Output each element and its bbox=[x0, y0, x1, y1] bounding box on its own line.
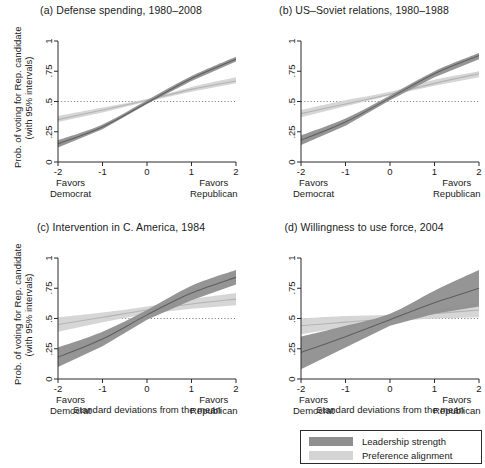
legend-item-leadership-strength: Leadership strength bbox=[301, 434, 481, 448]
panel-c-y-tick-2: .5 bbox=[43, 315, 54, 323]
x-axis-caption-right: Standard deviations from the mean bbox=[301, 404, 479, 415]
panel-a-plot-area: 0.25.5.751-2-1012FavorsDemocratFavorsRep… bbox=[58, 41, 236, 162]
panel-a-series-preference-alignment bbox=[58, 77, 236, 122]
panel-a-title: (a) Defense spending, 1980–2008 bbox=[0, 4, 242, 16]
panel-a-series-leadership-strength bbox=[58, 57, 236, 148]
panel-b-ci-band-leadership-strength bbox=[301, 53, 479, 145]
panel-d: (d) Willingness to use force, 2004 0.25.… bbox=[243, 217, 485, 432]
legend-swatch-preference-alignment bbox=[309, 451, 353, 460]
panel-a-y-tick-1: .25 bbox=[43, 125, 54, 138]
panel-a-y-tick-4: 1 bbox=[43, 38, 54, 43]
panel-a-x-tick-2: 0 bbox=[144, 166, 149, 177]
legend-label-preference-alignment: Preference alignment bbox=[362, 450, 452, 461]
panel-a-ci-band-preference-alignment bbox=[58, 77, 236, 122]
panel-b-axes bbox=[297, 41, 479, 166]
panel-a-x-sublabel-right: FavorsRepublican bbox=[190, 177, 238, 199]
figure-root: (a) Defense spending, 1980–2008 Prob. of… bbox=[0, 0, 485, 468]
x-sub-left-line1: Favors bbox=[299, 177, 328, 188]
panel-d-x-tick-4: 2 bbox=[476, 383, 481, 394]
panel-a-y-tick-0: 0 bbox=[43, 159, 54, 164]
legend-item-preference-alignment: Preference alignment bbox=[301, 448, 481, 462]
panel-d-y-tick-4: 1 bbox=[286, 255, 297, 260]
panel-b: (b) US–Soviet relations, 1980–1988 0.25.… bbox=[243, 0, 485, 215]
panel-a-x-tick-0: -2 bbox=[54, 166, 62, 177]
panel-c-canvas bbox=[58, 258, 236, 379]
panel-c-title: (c) Intervention in C. America, 1984 bbox=[0, 221, 242, 233]
x-axis-caption-left: Standard deviations from the mean bbox=[58, 404, 236, 415]
panel-b-series-preference-alignment bbox=[301, 71, 479, 117]
panel-c-y-tick-1: .25 bbox=[43, 342, 54, 355]
x-sub-left-line2: Democrat bbox=[293, 188, 334, 199]
panel-a-y-tick-2: .5 bbox=[43, 98, 54, 106]
panel-a-x-sublabel-left: FavorsDemocrat bbox=[50, 177, 91, 199]
panel-a-x-tick-3: 1 bbox=[189, 166, 194, 177]
panel-c-y-tick-0: 0 bbox=[43, 376, 54, 381]
panel-d-y-tick-0: 0 bbox=[286, 376, 297, 381]
panel-d-x-tick-2: 0 bbox=[387, 383, 392, 394]
x-sub-right-line2: Republican bbox=[433, 188, 481, 199]
panel-d-x-tick-1: -1 bbox=[341, 383, 349, 394]
panel-b-x-tick-0: -2 bbox=[297, 166, 305, 177]
panel-c-plot-area: 0.25.5.751-2-1012FavorsDemocratFavorsRep… bbox=[58, 258, 236, 379]
panel-b-canvas bbox=[301, 41, 479, 162]
panel-b-x-tick-3: 1 bbox=[432, 166, 437, 177]
panel-d-plot-area: 0.25.5.751-2-1012FavorsDemocratFavorsRep… bbox=[301, 258, 479, 379]
panel-b-x-tick-2: 0 bbox=[387, 166, 392, 177]
panel-b-y-tick-1: .25 bbox=[286, 125, 297, 138]
panel-a-y-tick-3: .75 bbox=[43, 65, 54, 78]
panel-c-y-axis-label: Prob. of voting for Rep. candidate (with… bbox=[12, 245, 34, 385]
panel-b-title: (b) US–Soviet relations, 1980–1988 bbox=[243, 4, 485, 16]
legend-label-leadership-strength: Leadership strength bbox=[362, 436, 446, 447]
panel-b-series-leadership-strength bbox=[301, 53, 479, 145]
panel-c-x-tick-0: -2 bbox=[54, 383, 62, 394]
panel-c-y-tick-4: 1 bbox=[43, 255, 54, 260]
panel-b-x-tick-1: -1 bbox=[341, 166, 349, 177]
panel-d-x-tick-0: -2 bbox=[297, 383, 305, 394]
x-sub-right-line1: Favors bbox=[442, 177, 471, 188]
x-sub-right-line1: Favors bbox=[199, 177, 228, 188]
panel-b-x-sublabel-right: FavorsRepublican bbox=[433, 177, 481, 199]
panel-d-y-tick-2: .5 bbox=[286, 315, 297, 323]
panel-c-x-tick-2: 0 bbox=[144, 383, 149, 394]
panel-d-x-tick-3: 1 bbox=[432, 383, 437, 394]
x-sub-left-line1: Favors bbox=[56, 177, 85, 188]
panel-c-x-tick-4: 2 bbox=[233, 383, 238, 394]
panel-d-y-tick-1: .25 bbox=[286, 342, 297, 355]
panel-a-x-tick-4: 2 bbox=[233, 166, 238, 177]
panel-d-y-tick-3: .75 bbox=[286, 282, 297, 295]
panel-c-x-tick-3: 1 bbox=[189, 383, 194, 394]
panel-d-title: (d) Willingness to use force, 2004 bbox=[243, 221, 485, 233]
panel-b-y-tick-2: .5 bbox=[286, 98, 297, 106]
panel-b-plot-area: 0.25.5.751-2-1012FavorsDemocratFavorsRep… bbox=[301, 41, 479, 162]
panel-b-x-sublabel-left: FavorsDemocrat bbox=[293, 177, 334, 199]
legend-swatch-leadership-strength bbox=[309, 437, 353, 446]
panel-b-y-tick-3: .75 bbox=[286, 65, 297, 78]
panel-c-y-tick-3: .75 bbox=[43, 282, 54, 295]
panel-b-x-tick-4: 2 bbox=[476, 166, 481, 177]
panel-d-canvas bbox=[301, 258, 479, 379]
panel-b-y-tick-0: 0 bbox=[286, 159, 297, 164]
x-sub-left-line2: Democrat bbox=[50, 188, 91, 199]
legend: Leadership strength Preference alignment bbox=[300, 430, 482, 464]
panel-a-y-axis-label: Prob. of voting for Rep. candidate (with… bbox=[12, 28, 34, 168]
x-sub-right-line2: Republican bbox=[190, 188, 238, 199]
panel-c-x-tick-1: -1 bbox=[98, 383, 106, 394]
panel-a-x-tick-1: -1 bbox=[98, 166, 106, 177]
panel-c: (c) Intervention in C. America, 1984 Pro… bbox=[0, 217, 242, 432]
panel-a: (a) Defense spending, 1980–2008 Prob. of… bbox=[0, 0, 242, 215]
panel-a-canvas bbox=[58, 41, 236, 162]
panel-b-y-tick-4: 1 bbox=[286, 38, 297, 43]
